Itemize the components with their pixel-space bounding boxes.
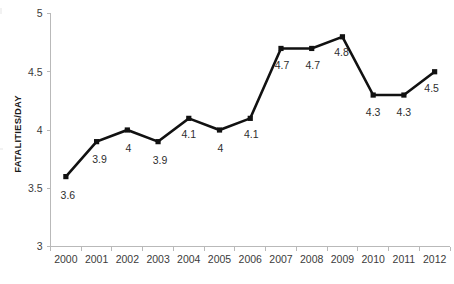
data-point-marker (340, 34, 345, 39)
data-point-label: 3.9 (153, 154, 168, 166)
x-tick-label: 2007 (269, 253, 293, 265)
data-point-label: 4.1 (181, 128, 196, 140)
data-point-label: 4.3 (366, 106, 381, 118)
data-point-marker (217, 127, 222, 132)
x-tick-label: 2008 (300, 253, 324, 265)
data-point-label: 4.7 (275, 59, 290, 71)
data-point-marker (432, 69, 437, 74)
data-point-label: 4.3 (397, 106, 412, 118)
x-tick-label: 2011 (393, 253, 416, 265)
data-point-marker (309, 46, 314, 51)
fatalities-per-day-line-chart: 33.544.55 200020012002200320042005200620… (0, 0, 454, 284)
chart-page: 33.544.55 200020012002200320042005200620… (0, 0, 454, 284)
x-tick-label: 2012 (423, 253, 447, 265)
y-axis (47, 14, 51, 247)
data-point-label: 4.5 (424, 82, 439, 94)
data-point-label: 4.8 (334, 46, 349, 58)
x-tick-label: 2001 (85, 253, 109, 265)
data-point-label: 3.6 (61, 189, 76, 201)
data-point-labels: 3.63.943.94.144.14.74.74.84.34.34.5 (61, 46, 440, 201)
y-tick-labels: 33.544.55 (28, 7, 43, 252)
data-point-label: 4.7 (305, 59, 320, 71)
data-point-label: 3.9 (92, 153, 107, 165)
data-point-marker (94, 139, 99, 144)
x-tick-label: 2002 (116, 253, 140, 265)
data-point-markers (63, 34, 437, 179)
x-tick-label: 2004 (177, 253, 201, 265)
data-point-label: 4 (218, 142, 224, 154)
data-point-label: 4.1 (244, 128, 259, 140)
data-point-marker (401, 92, 406, 97)
data-point-marker (371, 92, 376, 97)
x-tick-label: 2005 (208, 253, 232, 265)
data-point-marker (125, 127, 130, 132)
x-tick-labels: 2000200120022003200420052006200720082009… (54, 253, 446, 265)
y-tick-label: 5 (37, 7, 43, 19)
data-point-marker (155, 139, 160, 144)
y-tick-label: 4.5 (28, 66, 43, 78)
y-tick-label: 4 (37, 124, 43, 136)
y-tick-label: 3 (37, 240, 43, 252)
data-point-marker (248, 116, 253, 121)
x-axis (51, 247, 451, 251)
data-point-label: 4 (125, 142, 131, 154)
x-tick-label: 2009 (331, 253, 355, 265)
data-point-marker (63, 174, 68, 179)
x-tick-label: 2006 (239, 253, 263, 265)
x-tick-label: 2003 (146, 253, 170, 265)
y-axis-title: FATALITIES/DAY (12, 95, 23, 173)
data-point-marker (278, 46, 283, 51)
y-tick-label: 3.5 (28, 182, 43, 194)
data-point-marker (186, 116, 191, 121)
x-tick-label: 2000 (54, 253, 78, 265)
x-tick-label: 2010 (361, 253, 385, 265)
